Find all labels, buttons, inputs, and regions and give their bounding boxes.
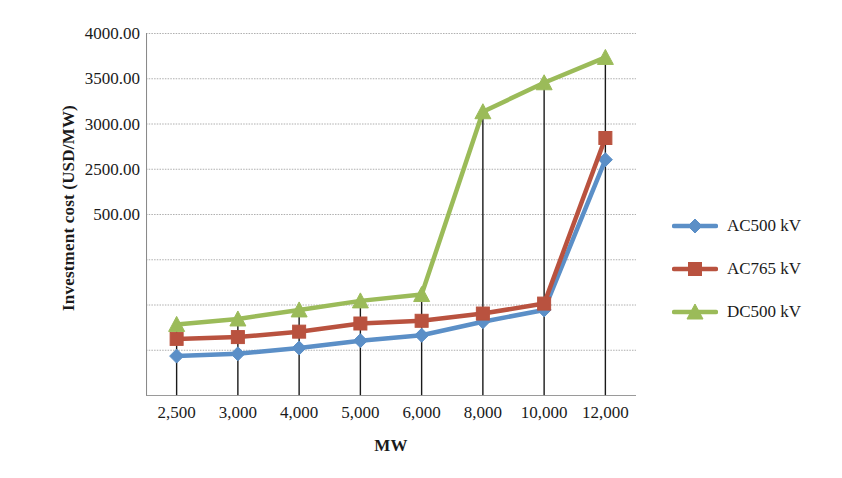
legend-marker-triangle-icon [672,302,718,322]
data-marker-diamond [688,219,702,233]
data-marker-square [354,317,367,330]
data-marker-diamond [292,341,306,355]
y-axis-tick-label: 2500.00 [40,161,140,178]
data-marker-diamond [231,347,245,361]
series-line [177,57,606,324]
y-axis-tick-label: 500.00 [40,206,140,223]
data-marker-square [689,262,702,275]
data-marker-square [170,332,183,345]
data-marker-triangle [597,49,613,64]
y-axis-tick-labels: 4000.003500.003000.002500.00500.00 [30,0,140,478]
data-marker-diamond [353,334,367,348]
data-marker-square [293,325,306,338]
data-marker-square [599,131,612,144]
data-marker-square [538,297,551,310]
x-axis-tick-label: 12,000 [568,404,642,421]
data-marker-diamond [170,349,184,363]
plot-area [146,33,636,395]
x-axis-title: MW [146,436,636,456]
data-marker-square [476,307,489,320]
y-axis-tick-label: 4000.00 [40,25,140,42]
legend-marker-diamond-icon [672,216,718,236]
legend-item[interactable]: DC500 kV [672,290,842,333]
chart-figure: Investment cost (USD/MW) 4000.003500.003… [0,0,842,478]
data-marker-square [415,314,428,327]
data-marker-diamond [415,328,429,342]
x-axis-tick-labels: 2,5003,0004,0005,0006,0008,00010,00012,0… [146,404,636,428]
legend-label: AC500 kV [718,216,801,236]
legend-label: AC765 kV [718,259,801,279]
chart-legend: AC500 kVAC765 kVDC500 kV [672,204,842,333]
y-axis-tick-label: 3500.00 [40,70,140,87]
y-axis-tick-label: 3000.00 [40,116,140,133]
legend-label: DC500 kV [718,302,801,322]
legend-marker-square-icon [672,259,718,279]
legend-item[interactable]: AC500 kV [672,204,842,247]
series-line [177,160,606,356]
data-marker-square [231,331,244,344]
plot-svg [146,33,636,396]
legend-item[interactable]: AC765 kV [672,247,842,290]
series-dc500-kv [169,49,614,331]
